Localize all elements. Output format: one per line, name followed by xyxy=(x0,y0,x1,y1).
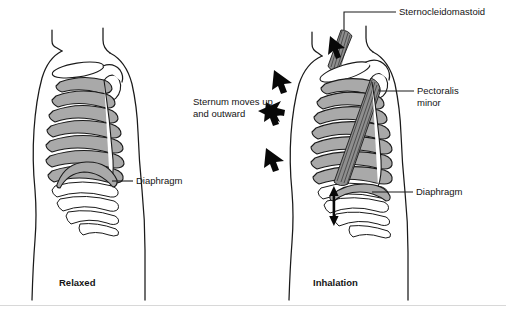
label-sternocleidomastoid: Sternocleidomastoid xyxy=(399,6,485,17)
label-sternum-line1: Sternum moves up xyxy=(193,96,273,107)
label-diaphragm-inhalation: Diaphragm xyxy=(416,186,463,197)
diagram-canvas: Diaphragm Relaxed xyxy=(0,0,506,316)
caption-inhalation: Inhalation xyxy=(313,277,358,288)
label-diaphragm-relaxed: Diaphragm xyxy=(136,175,183,186)
label-pectoralis-minor-line2: minor xyxy=(417,97,441,108)
respiration-diagram: Diaphragm Relaxed xyxy=(0,0,506,316)
label-sternum-line2: and outward xyxy=(193,108,245,119)
caption-relaxed: Relaxed xyxy=(59,277,96,288)
label-pectoralis-minor-line1: Pectoralis xyxy=(417,85,459,96)
